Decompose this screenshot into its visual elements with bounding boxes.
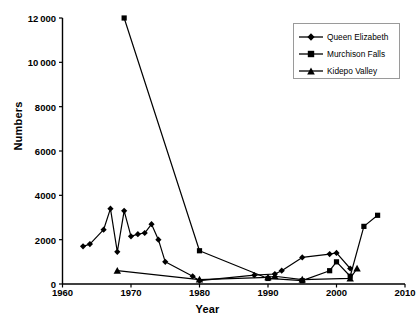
data-point-square bbox=[375, 213, 380, 218]
legend-label: Murchison Falls bbox=[327, 49, 385, 59]
data-point-diamond bbox=[128, 233, 134, 239]
data-point-square bbox=[327, 268, 332, 273]
data-point-diamond bbox=[114, 249, 120, 255]
data-point-triangle bbox=[114, 267, 121, 274]
data-point-diamond bbox=[162, 259, 168, 265]
legend-item-murchison-falls: Murchison Falls bbox=[294, 45, 399, 62]
series-line bbox=[83, 209, 350, 281]
data-point-diamond bbox=[121, 208, 127, 214]
data-point-square bbox=[361, 224, 366, 229]
series-kidepo-valley bbox=[114, 265, 361, 283]
data-point-diamond bbox=[155, 237, 161, 243]
data-point-diamond bbox=[135, 231, 141, 237]
data-point-square bbox=[197, 248, 202, 253]
legend-label: Kidepo Valley bbox=[327, 66, 377, 76]
data-point-triangle bbox=[353, 265, 360, 272]
data-point-diamond bbox=[107, 206, 113, 212]
data-point-diamond bbox=[279, 268, 285, 274]
legend-label: Queen Elizabeth bbox=[327, 32, 388, 42]
diamond-marker-icon bbox=[298, 31, 324, 43]
data-point-diamond bbox=[80, 243, 86, 249]
triangle-marker-icon bbox=[298, 65, 324, 77]
data-point-diamond bbox=[299, 254, 305, 260]
data-point-diamond bbox=[327, 251, 333, 257]
legend: Queen Elizabeth Murchison Falls Kidepo V… bbox=[293, 23, 400, 79]
square-marker-icon bbox=[298, 48, 324, 60]
data-point-square bbox=[334, 259, 339, 264]
data-point-square bbox=[122, 15, 127, 20]
series-queen-elizabeth bbox=[80, 206, 353, 284]
legend-item-kidepo-valley: Kidepo Valley bbox=[294, 62, 399, 79]
legend-item-queen-elizabeth: Queen Elizabeth bbox=[294, 28, 399, 45]
